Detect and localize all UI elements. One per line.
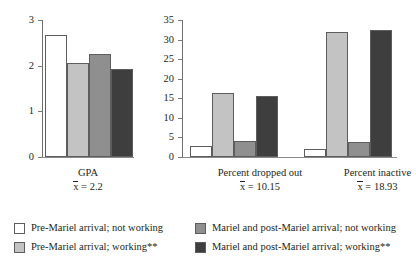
caption-mean-value: = 2.2 xyxy=(78,181,102,192)
y-axis-tick-label: 35 xyxy=(164,15,175,26)
y-axis-tick-label: 2 xyxy=(29,60,34,71)
bar xyxy=(304,149,326,157)
legend-item-label: Mariel and post-Mariel arrival; working*… xyxy=(212,242,390,253)
y-axis-tick-label: 30 xyxy=(164,34,175,45)
bar xyxy=(256,96,278,157)
y-axis-percent xyxy=(182,20,183,158)
x-axis-gpa xyxy=(42,157,134,158)
legend-item-label: Mariel and post-Mariel arrival; not work… xyxy=(212,223,396,234)
legend-item-pre-mariel-not-working: Pre-Mariel arrival; not working xyxy=(14,223,195,234)
x-axis-caption-inactive: Percent inactive x = 18.93 xyxy=(320,166,416,194)
bar xyxy=(234,141,256,157)
legend-item-label: Pre-Mariel arrival; working** xyxy=(31,242,158,253)
caption-line-1: Percent inactive xyxy=(344,167,411,178)
y-axis-tick-label: 15 xyxy=(164,93,175,104)
y-axis-tick: 15 xyxy=(178,98,182,99)
legend-item-mariel-post-working: Mariel and post-Mariel arrival; working*… xyxy=(195,242,399,253)
bar xyxy=(67,63,89,157)
y-axis-tick: 1 xyxy=(38,111,42,112)
y-axis-tick: 20 xyxy=(178,79,182,80)
y-axis-tick: 30 xyxy=(178,40,182,41)
bar xyxy=(348,142,370,157)
chart-legend: Pre-Mariel arrival; not working Mariel a… xyxy=(14,219,399,257)
caption-line-2: x = 10.15 xyxy=(190,180,330,194)
bar-group xyxy=(45,20,133,157)
legend-swatch-icon xyxy=(14,242,25,253)
legend-item-mariel-post-not-working: Mariel and post-Mariel arrival; not work… xyxy=(195,223,399,234)
plot-area-gpa: 0123 xyxy=(42,20,134,158)
legend-swatch-icon xyxy=(14,223,25,234)
y-axis-tick: 2 xyxy=(38,66,42,67)
caption-line-2: x = 2.2 xyxy=(42,180,134,194)
legend-item-label: Pre-Mariel arrival; not working xyxy=(31,223,163,234)
bar xyxy=(89,54,111,157)
bar-group xyxy=(190,20,278,157)
y-axis-tick: 3 xyxy=(38,20,42,21)
legend-item-pre-mariel-working: Pre-Mariel arrival; working** xyxy=(14,242,195,253)
bar xyxy=(45,35,67,157)
y-axis-tick-label: 10 xyxy=(164,113,175,124)
caption-mean-value: = 18.93 xyxy=(363,181,398,192)
bar xyxy=(111,69,133,157)
bar xyxy=(190,146,212,157)
y-axis-tick: 35 xyxy=(178,20,182,21)
bar xyxy=(212,93,234,157)
bar xyxy=(370,30,392,157)
bar-group xyxy=(304,20,392,157)
y-axis-tick: 10 xyxy=(178,118,182,119)
x-axis-caption-dropped-out: Percent dropped out x = 10.15 xyxy=(190,166,330,194)
legend-swatch-icon xyxy=(195,223,206,234)
y-axis-tick-label: 0 xyxy=(29,152,34,163)
y-axis-tick: 25 xyxy=(178,59,182,60)
caption-mean-value: = 10.15 xyxy=(245,181,280,192)
caption-line-1: GPA xyxy=(78,167,98,178)
legend-swatch-icon xyxy=(195,242,206,253)
bar xyxy=(326,32,348,157)
caption-line-2: x = 18.93 xyxy=(320,180,416,194)
x-axis-percent xyxy=(182,157,397,158)
caption-line-1: Percent dropped out xyxy=(218,167,303,178)
y-axis-tick-label: 5 xyxy=(169,132,174,143)
y-axis-tick-label: 20 xyxy=(164,73,175,84)
y-axis-tick: 0 xyxy=(178,157,182,158)
y-axis-tick-label: 3 xyxy=(29,15,34,26)
y-axis-tick: 0 xyxy=(38,157,42,158)
y-axis-tick-label: 25 xyxy=(164,54,175,65)
y-axis-tick: 5 xyxy=(178,137,182,138)
plot-area-percent: 05101520253035 xyxy=(182,20,397,158)
y-axis-gpa xyxy=(42,20,43,158)
y-axis-tick-label: 0 xyxy=(169,152,174,163)
x-axis-caption-gpa: GPA x = 2.2 xyxy=(42,166,134,194)
y-axis-tick-label: 1 xyxy=(29,106,34,117)
